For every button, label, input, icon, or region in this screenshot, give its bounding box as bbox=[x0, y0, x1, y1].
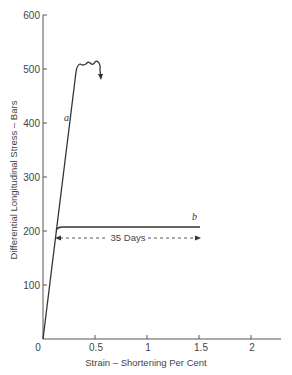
x-tick-1-5: 1.5 bbox=[194, 342, 208, 353]
arrow-right-icon bbox=[195, 236, 201, 241]
y-tick-100: 100 bbox=[23, 280, 40, 291]
y-tick-600: 600 bbox=[23, 10, 40, 21]
axes bbox=[43, 15, 281, 339]
x-tick-0-5: 0.5 bbox=[89, 342, 103, 353]
x-tick-1: 1 bbox=[145, 342, 151, 353]
y-tick-500: 500 bbox=[23, 64, 40, 75]
x-tick-labels: 0 0.5 1 1.5 2 bbox=[35, 342, 255, 353]
duration-arrow: 35 Days bbox=[55, 232, 201, 243]
stress-strain-chart: 600 500 400 300 200 100 0 0.5 1 1.5 2 St… bbox=[0, 0, 292, 375]
x-tick-2: 2 bbox=[249, 342, 255, 353]
x-axis-label: Strain – Shortening Per Cent bbox=[85, 357, 207, 368]
y-tick-200: 200 bbox=[23, 226, 40, 237]
curve-b-label: b bbox=[192, 211, 197, 222]
curve-a bbox=[43, 61, 101, 339]
duration-label: 35 Days bbox=[111, 232, 146, 243]
curve-a-end-arrow-icon bbox=[98, 74, 103, 80]
curve-a-label: a bbox=[64, 112, 69, 123]
curve-b bbox=[56, 227, 200, 230]
y-tick-400: 400 bbox=[23, 118, 40, 129]
y-tick-300: 300 bbox=[23, 172, 40, 183]
x-tick-0: 0 bbox=[35, 342, 41, 353]
y-tick-labels: 600 500 400 300 200 100 bbox=[23, 10, 40, 291]
y-axis-label: Differential Longitudinal Stress – Bars bbox=[8, 100, 19, 259]
